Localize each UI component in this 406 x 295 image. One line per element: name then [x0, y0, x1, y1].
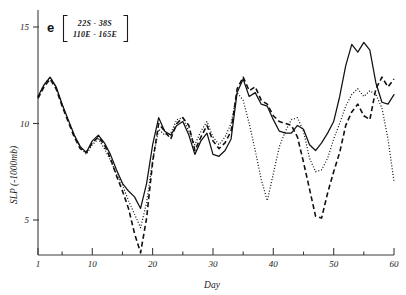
slp-timeseries-chart: 51015 1102030405060 SLP (-1000mb) Day e … [0, 0, 406, 295]
chart-background [0, 0, 406, 295]
x-tick-label: 40 [269, 259, 279, 269]
x-tick-label: 1 [36, 259, 41, 269]
chart-figure: 51015 1102030405060 SLP (-1000mb) Day e … [0, 0, 406, 295]
y-tick-label: 15 [20, 22, 30, 32]
y-tick-label: 5 [25, 215, 30, 225]
x-axis-title: Day [203, 280, 221, 290]
x-tick-label: 50 [329, 259, 339, 269]
panel-label: e [47, 20, 54, 35]
annotation-lon-range: 110E - 165E [73, 30, 117, 39]
x-tick-label: 10 [88, 259, 98, 269]
x-tick-label: 60 [390, 259, 400, 269]
x-tick-label: 20 [148, 259, 158, 269]
x-tick-label: 30 [208, 259, 219, 269]
y-tick-label: 10 [20, 119, 30, 129]
annotation-lat-range: 22S - 38S [77, 19, 113, 28]
y-axis-title: SLP (-1000mb) [9, 146, 20, 204]
